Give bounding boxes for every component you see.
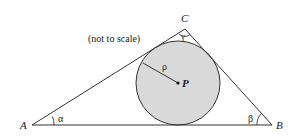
angle-label-gamma: γ: [180, 31, 185, 41]
center-point: [176, 81, 179, 84]
vertex-label-c: C: [181, 12, 189, 24]
incircle-triangle-diagram: A B C α β γ ρ P (not to scale): [0, 0, 299, 137]
angle-arc-alpha: [53, 117, 55, 126]
vertex-label-b: B: [276, 119, 283, 131]
angle-label-alpha: α: [58, 113, 64, 124]
center-label-p: P: [182, 77, 189, 89]
angle-label-beta: β: [248, 113, 253, 124]
radius-label-rho: ρ: [162, 61, 167, 72]
not-to-scale-note: (not to scale): [88, 33, 140, 45]
vertex-label-a: A: [19, 119, 27, 131]
angle-arc-beta: [257, 114, 262, 126]
